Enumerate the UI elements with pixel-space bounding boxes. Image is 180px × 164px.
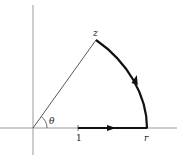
label-r: r (144, 133, 149, 143)
diagram-canvas: z θ 1 r (0, 0, 180, 164)
label-one: 1 (76, 133, 82, 143)
theta-angle-arc (41, 117, 47, 128)
label-z: z (92, 28, 98, 38)
path-arc (96, 40, 147, 128)
label-theta: θ (49, 116, 55, 126)
arrow-right-icon (107, 125, 116, 131)
ray-to-z (33, 40, 96, 128)
